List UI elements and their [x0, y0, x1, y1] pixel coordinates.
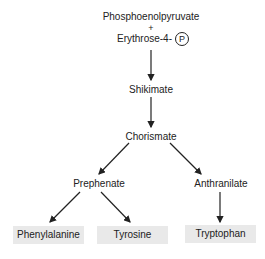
product-tyrosine: Tyrosine [97, 226, 168, 244]
node-phosphoenolpyruvate: Phosphoenolpyruvate [90, 11, 212, 22]
node-erythrose-4-phosphate: Erythrose-4-P [108, 32, 198, 46]
product-phenylalanine: Phenylalanine [13, 226, 84, 244]
arrow-to-anthranilate [170, 143, 201, 174]
node-shikimate: Shikimate [121, 84, 181, 95]
node-prephenate: Prephenate [60, 178, 138, 189]
arrow-to-phenylalanine [50, 192, 80, 222]
phosphate-circle-icon: P [175, 32, 189, 46]
arrow-to-prephenate [99, 143, 129, 174]
erythrose-label: Erythrose-4- [117, 33, 172, 44]
node-anthranilate: Anthranilate [184, 178, 258, 189]
arrow-to-tyrosine [101, 192, 130, 222]
product-tryptophan: Tryptophan [185, 225, 256, 243]
node-chorismate: Chorismate [116, 131, 186, 142]
